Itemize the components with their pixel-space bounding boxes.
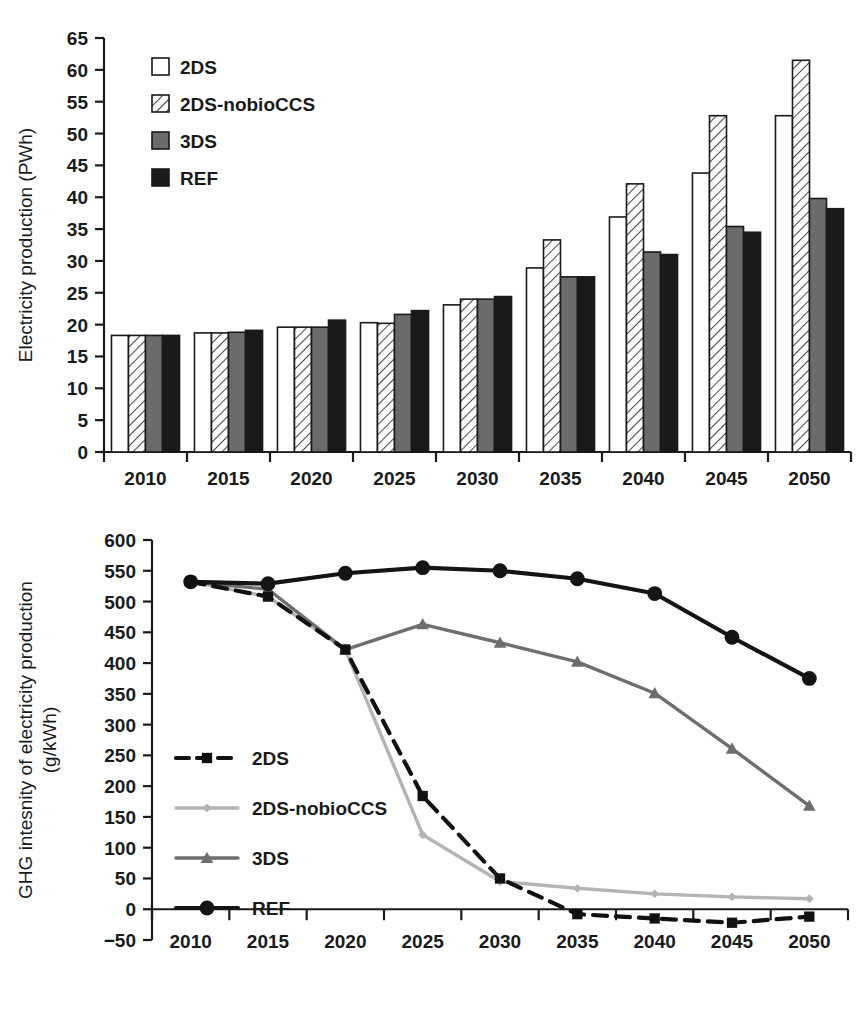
marker-square — [202, 753, 212, 763]
x-tick-label-2020: 2020 — [290, 468, 332, 489]
marker-circle — [200, 901, 215, 916]
bar-2ds-2045 — [692, 173, 709, 452]
legend-marker-icon — [202, 753, 212, 763]
data-point-2ds-2035 — [572, 909, 582, 919]
x-tick-label-2025: 2025 — [373, 468, 416, 489]
data-point-ref-2045 — [725, 630, 740, 645]
ghg-intensity-line-chart: −50050100150200250300350400450500550600G… — [0, 498, 863, 1016]
bar-2ds-nobioccs-2050 — [792, 60, 809, 452]
bar-ref-2040 — [661, 255, 678, 452]
bar-3ds-2035 — [561, 277, 578, 452]
data-point-2ds-2020 — [340, 644, 350, 654]
x-tick-label-2015: 2015 — [207, 468, 250, 489]
bar-2ds-2020 — [277, 327, 294, 452]
marker-square — [804, 911, 814, 921]
legend-item-3ds[interactable]: 3DS — [176, 848, 289, 869]
bar-chart-canvas: 05101520253035404550556065Electricity pr… — [0, 0, 863, 500]
bar-ref-2025 — [412, 311, 429, 452]
bar-3ds-2045 — [727, 227, 744, 452]
y-tick-label: 550 — [104, 561, 136, 582]
y-tick-label: 40 — [67, 187, 88, 208]
legend-label: 2DS-nobioCCS — [180, 94, 315, 115]
bar-ref-2045 — [744, 232, 761, 452]
bar-2ds-nobioccs-2045 — [709, 116, 726, 452]
y-tick-label: 35 — [67, 219, 89, 240]
legend-item-ref[interactable]: REF — [176, 898, 290, 919]
y-tick-label: 20 — [67, 315, 88, 336]
data-point-ref-2020 — [338, 566, 353, 581]
data-point-ref-2030 — [493, 563, 508, 578]
data-point-2ds-nobioccs-2050 — [805, 894, 814, 903]
y-tick-label: 45 — [67, 155, 89, 176]
legend-label: 2DS — [180, 57, 217, 78]
data-point-2ds-2025 — [418, 791, 428, 801]
y-tick-label: 30 — [67, 251, 88, 272]
marker-square — [186, 577, 196, 587]
marker-circle — [725, 630, 740, 645]
bar-ref-2015 — [246, 330, 263, 452]
legend-swatch-icon — [152, 95, 169, 112]
marker-diamond — [203, 804, 212, 813]
series-line-3ds[interactable] — [191, 582, 810, 806]
marker-square — [263, 591, 273, 601]
data-point-ref-2015 — [261, 576, 276, 591]
y-axis-title-line2: (g/kWh) — [39, 707, 60, 774]
legend-item-2ds[interactable]: 2DS — [176, 748, 289, 769]
y-tick-label: 10 — [67, 378, 88, 399]
y-tick-label: 50 — [67, 124, 88, 145]
legend-item-2ds-nobioccs[interactable]: 2DS-nobioCCS — [152, 94, 315, 115]
legend-item-2ds[interactable]: 2DS — [152, 57, 217, 78]
marker-diamond — [728, 892, 737, 901]
y-tick-label: 500 — [104, 592, 136, 613]
bar-2ds-2035 — [526, 268, 543, 452]
legend-label: REF — [252, 898, 290, 919]
y-tick-label: 25 — [67, 283, 89, 304]
marker-diamond — [573, 884, 582, 893]
legend-item-3ds[interactable]: 3DS — [152, 131, 217, 152]
bar-2ds-nobioccs-2035 — [543, 240, 560, 452]
marker-square — [572, 909, 582, 919]
series-line-ref[interactable] — [191, 568, 810, 679]
data-point-2ds-2015 — [263, 591, 273, 601]
x-tick-label-2040: 2040 — [622, 468, 664, 489]
marker-square — [650, 913, 660, 923]
y-tick-label: 300 — [104, 715, 136, 736]
bar-3ds-2025 — [395, 314, 412, 452]
y-tick-label: 15 — [67, 346, 89, 367]
electricity-production-bar-chart: 05101520253035404550556065Electricity pr… — [0, 0, 863, 500]
y-axis-title-line1: GHG intesnity of electricity production — [15, 581, 36, 899]
data-point-2ds-2045 — [727, 918, 737, 928]
legend-swatch-icon — [152, 169, 169, 186]
bar-2ds-nobioccs-2020 — [294, 327, 311, 452]
y-tick-label: 200 — [104, 776, 136, 797]
bar-3ds-2040 — [644, 252, 661, 452]
data-point-2ds-2040 — [650, 913, 660, 923]
marker-circle — [415, 560, 430, 575]
data-point-ref-2040 — [647, 586, 662, 601]
x-tick-label-2035: 2035 — [556, 931, 599, 952]
bar-2ds-nobioccs-2025 — [377, 323, 394, 452]
bar-3ds-2030 — [478, 299, 495, 452]
legend-swatch-icon — [152, 132, 169, 149]
marker-diamond — [650, 889, 659, 898]
y-tick-label: −50 — [104, 930, 136, 951]
bar-2ds-nobioccs-2015 — [211, 333, 228, 452]
legend-item-ref[interactable]: REF — [152, 168, 218, 189]
legend-label: 3DS — [180, 131, 217, 152]
x-tick-label-2010: 2010 — [124, 468, 166, 489]
y-tick-label: 50 — [115, 868, 136, 889]
y-tick-label: 350 — [104, 684, 136, 705]
bar-ref-2020 — [329, 320, 346, 452]
data-point-2ds-nobioccs-2045 — [728, 892, 737, 901]
bar-3ds-2015 — [229, 332, 246, 452]
x-tick-label-2030: 2030 — [456, 468, 498, 489]
marker-circle — [338, 566, 353, 581]
bar-ref-2010 — [163, 335, 180, 452]
y-tick-label: 600 — [104, 530, 136, 551]
data-point-2ds-nobioccs-2040 — [650, 889, 659, 898]
legend-item-2ds-nobioccs[interactable]: 2DS-nobioCCS — [176, 798, 387, 819]
bar-ref-2030 — [495, 297, 512, 452]
x-tick-label-2050: 2050 — [788, 468, 830, 489]
bar-2ds-2015 — [194, 333, 211, 452]
y-tick-label: 60 — [67, 60, 88, 81]
